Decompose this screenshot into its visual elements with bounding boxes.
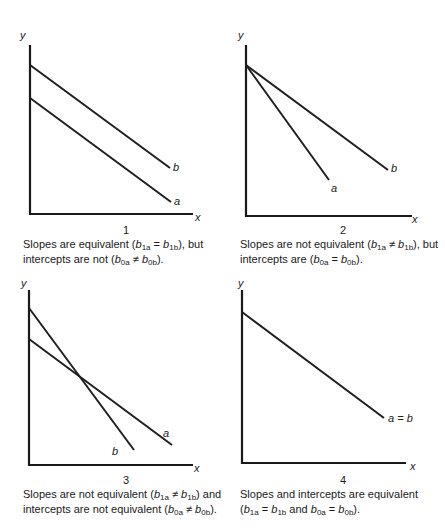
- panel-4-axes: [242, 290, 406, 463]
- panel-2-x-label: x: [411, 213, 418, 225]
- panel-4-caption-line-1: Slopes and intercepts are equivalent: [240, 487, 418, 502]
- panel-2-y-label: y: [237, 29, 245, 41]
- panel-4-number: 4: [333, 474, 353, 486]
- panel-3: y x b a: [20, 277, 200, 474]
- panel-4-line-ab: [242, 312, 384, 418]
- panel-4-caption: Slopes and intercepts are equivalent (b1…: [240, 487, 418, 517]
- panel-1-caption-line-1: Slopes are equivalent (b1a = b1b), but: [23, 237, 203, 252]
- panel-4-y-label: y: [237, 277, 245, 289]
- panel-4-line-ab-label: a = b: [388, 412, 413, 424]
- panel-1-line-b-label: b: [173, 161, 179, 173]
- panel-2-caption-line-2: intercepts are (b0a = b0b).: [240, 252, 438, 267]
- panel-2-line-b-label: b: [391, 162, 397, 174]
- panel-1-x-label: x: [194, 211, 201, 223]
- panel-2: y x a b: [237, 29, 418, 225]
- panel-1-line-a: [30, 98, 171, 202]
- panel-3-caption-line-1: Slopes are not equivalent (b1a ≠ b1b) an…: [23, 487, 221, 502]
- panel-1-caption: Slopes are equivalent (b1a = b1b), but i…: [23, 237, 203, 267]
- panel-1: y x b a: [19, 29, 201, 223]
- panel-1-caption-line-2: intercepts are not (b0a ≠ b0b).: [23, 252, 203, 267]
- panel-2-line-a-label: a: [331, 182, 337, 194]
- panel-2-caption: Slopes are not equivalent (b1a ≠ b1b), b…: [240, 237, 438, 267]
- panel-2-line-b: [246, 65, 388, 170]
- panel-3-line-a: [29, 339, 172, 445]
- panel-1-axes: [30, 45, 193, 214]
- panel-4: y x a = b: [237, 277, 416, 472]
- panel-3-y-label: y: [20, 277, 28, 289]
- panel-4-x-label: x: [409, 460, 416, 472]
- panel-2-number: 2: [333, 224, 353, 236]
- panel-4-caption-line-2: (b1a = b1b and b0a = b0b).: [240, 502, 418, 517]
- panel-2-line-a: [246, 65, 329, 180]
- panel-3-caption: Slopes are not equivalent (b1a ≠ b1b) an…: [23, 487, 221, 517]
- panel-2-axes: [246, 45, 412, 216]
- panel-3-line-a-label: a: [163, 427, 169, 439]
- panel-3-line-b-label: b: [112, 445, 118, 457]
- panel-3-x-label: x: [193, 462, 200, 474]
- panel-1-y-label: y: [19, 29, 27, 41]
- panel-3-number: 3: [116, 474, 136, 486]
- panel-1-line-a-label: a: [174, 195, 180, 207]
- panel-2-caption-line-1: Slopes are not equivalent (b1a ≠ b1b), b…: [240, 237, 438, 252]
- panel-3-caption-line-2: intercepts are not equivalent (b0a ≠ b0b…: [23, 502, 221, 517]
- panel-1-line-b: [30, 65, 170, 168]
- panel-1-number: 1: [116, 224, 136, 236]
